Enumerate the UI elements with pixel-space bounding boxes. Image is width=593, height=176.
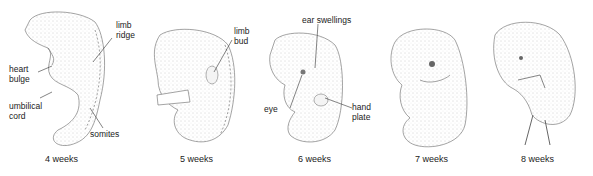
label-eye: eye [264, 104, 278, 114]
caption-8-weeks: 8 weeks [521, 154, 554, 164]
label-somites: somites [90, 129, 119, 139]
embryo-illustrations [0, 0, 593, 176]
label-heart-bulge: heart bulge [9, 64, 30, 84]
embryo-6-weeks [270, 33, 343, 142]
label-limb-bud: limb bud [234, 26, 250, 46]
caption-6-weeks: 6 weeks [298, 154, 331, 164]
caption-5-weeks: 5 weeks [180, 154, 213, 164]
embryo-8-weeks [494, 22, 576, 145]
embryo-5-weeks [154, 29, 234, 142]
caption-7-weeks: 7 weeks [415, 154, 448, 164]
embryo-4-weeks [25, 12, 105, 146]
label-limb-ridge: limb ridge [116, 20, 135, 40]
label-hand-plate: hand plate [352, 102, 371, 122]
embryo-7-weeks [391, 29, 467, 147]
caption-4-weeks: 4 weeks [45, 154, 78, 164]
label-umbilical-cord: umbilical cord [9, 101, 42, 121]
label-ear-swellings: ear swellings [302, 15, 351, 25]
